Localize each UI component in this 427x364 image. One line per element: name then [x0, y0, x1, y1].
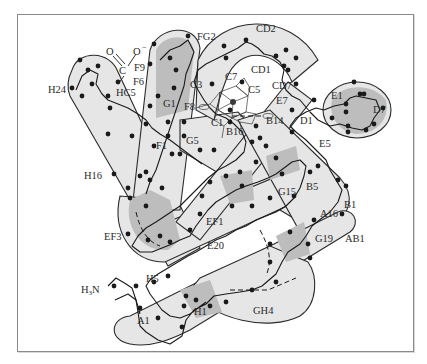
label-ef1: EF1 — [206, 216, 224, 227]
label-cd1: CD1 — [251, 64, 271, 75]
label-f6: F6 — [133, 76, 144, 87]
label-fg2: FG2 — [197, 31, 216, 42]
label-e1: E1 — [331, 90, 343, 101]
label-hc5: HC5 — [116, 87, 136, 98]
label-ef3: EF3 — [104, 231, 122, 242]
label-a16: A16 — [320, 208, 338, 219]
label-o-charge: − — [142, 43, 147, 52]
label-ab1: AB1 — [345, 233, 365, 244]
label-b16: B16 — [226, 126, 244, 137]
label-f9: F9 — [134, 62, 145, 73]
carboxyl-bond-left-double — [116, 54, 125, 64]
label-c5: C5 — [248, 84, 260, 95]
label-e5: E5 — [319, 138, 331, 149]
label-c3: C3 — [190, 79, 202, 90]
label-o-right: O — [133, 46, 141, 57]
label-c-carboxyl: C — [119, 65, 126, 76]
label-b14: B14 — [266, 115, 284, 126]
label-g19: G19 — [315, 233, 333, 244]
label-b5: B5 — [306, 181, 318, 192]
label-cd7: CD7 — [272, 80, 292, 91]
label-g15: G15 — [278, 186, 296, 197]
label-c7: C7 — [225, 71, 237, 82]
label-f8: F8 — [184, 101, 195, 112]
label-d1: D1 — [300, 115, 313, 126]
label-h24: H24 — [48, 84, 67, 95]
label-g1: G1 — [163, 98, 176, 109]
label-h3n: H3N — [81, 284, 100, 297]
label-h16: H16 — [84, 170, 102, 181]
label-b1: B1 — [344, 199, 356, 210]
label-gh4: GH4 — [253, 305, 274, 316]
label-h5: H5 — [146, 273, 159, 284]
label-d7: D7 — [373, 104, 386, 115]
label-cd2: CD2 — [256, 23, 276, 34]
label-o-left: O — [106, 46, 114, 57]
label-a1: A1 — [137, 315, 150, 326]
label-c1: C1 — [211, 117, 223, 128]
label-e7: E7 — [276, 95, 288, 106]
label-h1: H1 — [194, 306, 207, 317]
globin-structure-diagram: FG2 CD2 O O − C F9 F6 H24 HC5 C3 C7 CD1 … — [0, 0, 427, 364]
label-e20: E20 — [207, 240, 224, 251]
label-g5: G5 — [186, 135, 199, 146]
label-f1: F1 — [156, 140, 167, 151]
